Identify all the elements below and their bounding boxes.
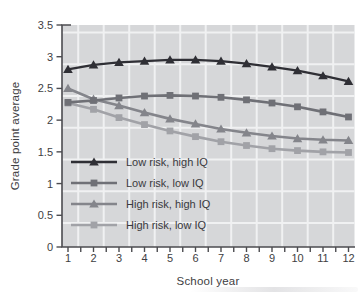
data-point-marker: [320, 108, 327, 115]
data-point-marker: [218, 94, 225, 101]
y-axis-title: Grade point average: [9, 56, 23, 216]
data-point-marker: [345, 114, 352, 121]
x-tick-label: 9: [269, 252, 275, 264]
chart-svg: 00.511.522.533.5123456789101112: [0, 0, 358, 297]
x-axis-title: School year: [62, 275, 354, 287]
x-tick-label: 2: [90, 252, 96, 264]
x-tick-label: 1: [65, 252, 71, 264]
legend-label: Low risk, low IQ: [126, 177, 204, 189]
data-point-marker: [294, 103, 301, 110]
y-tick-label: 1.5: [38, 146, 53, 158]
data-point-marker: [141, 121, 148, 128]
legend-swatch: [70, 156, 118, 168]
legend-item: Low risk, low IQ: [70, 172, 210, 193]
x-tick-label: 7: [218, 252, 224, 264]
legend-marker: [91, 221, 98, 228]
gpa-risk-iq-figure: 00.511.522.533.5123456789101112 Low risk…: [0, 0, 358, 297]
y-tick-label: 3: [47, 51, 53, 63]
legend-swatch: [70, 219, 118, 231]
data-point-marker: [65, 99, 72, 106]
data-point-marker: [90, 106, 97, 113]
legend-label: Low risk, high IQ: [126, 156, 208, 168]
data-point-marker: [294, 147, 301, 154]
data-point-marker: [141, 93, 148, 100]
data-point-marker: [192, 133, 199, 140]
legend-label: High risk, low IQ: [126, 219, 206, 231]
data-point-marker: [167, 128, 174, 135]
data-point-marker: [320, 148, 327, 155]
data-point-marker: [243, 142, 250, 149]
data-point-marker: [243, 96, 250, 103]
data-point-marker: [218, 138, 225, 145]
x-tick-label: 10: [291, 252, 303, 264]
y-tick-label: 1: [47, 178, 53, 190]
y-tick-label: 2: [47, 114, 53, 126]
data-point-marker: [269, 100, 276, 107]
x-tick-label: 3: [116, 252, 122, 264]
y-tick-label: 2.5: [38, 82, 53, 94]
data-point-marker: [116, 95, 123, 102]
y-tick-label: 0.5: [38, 209, 53, 221]
x-tick-label: 12: [342, 252, 354, 264]
legend-swatch: [70, 198, 118, 210]
data-point-marker: [167, 92, 174, 99]
y-tick-label: 0: [47, 241, 53, 253]
y-tick-label: 3.5: [38, 19, 53, 31]
data-point-marker: [116, 114, 123, 121]
legend-marker: [91, 179, 98, 186]
x-tick-label: 6: [192, 252, 198, 264]
legend-swatch: [70, 177, 118, 189]
legend: Low risk, high IQLow risk, low IQHigh ri…: [70, 151, 210, 235]
legend-label: High risk, high IQ: [126, 198, 210, 210]
x-tick-label: 8: [243, 252, 249, 264]
x-tick-label: 5: [167, 252, 173, 264]
legend-item: Low risk, high IQ: [70, 151, 210, 172]
legend-item: High risk, high IQ: [70, 193, 210, 214]
x-tick-label: 4: [141, 252, 147, 264]
scan-artifact: [190, 287, 358, 292]
legend-item: High risk, low IQ: [70, 214, 210, 235]
data-point-marker: [192, 93, 199, 100]
data-point-marker: [269, 145, 276, 152]
data-point-marker: [90, 97, 97, 104]
x-tick-label: 11: [317, 252, 328, 264]
data-point-marker: [345, 149, 352, 156]
